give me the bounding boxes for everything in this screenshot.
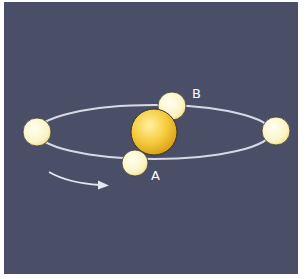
planet-left [23, 118, 51, 146]
label-a: A [151, 168, 160, 183]
direction-arrow-icon [49, 172, 109, 190]
orbit-diagram: B A [0, 0, 307, 279]
planet-right [262, 117, 290, 145]
central-star [131, 109, 177, 155]
planet-a [122, 150, 148, 176]
label-b: B [192, 86, 201, 101]
